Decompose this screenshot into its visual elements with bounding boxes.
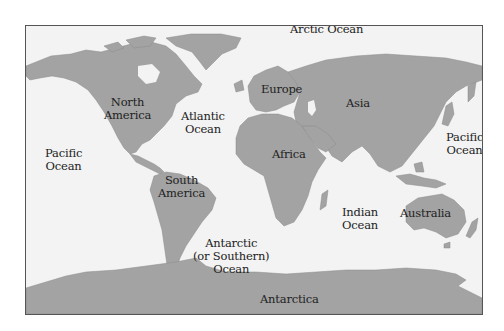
label-arctic-ocean: Arctic Ocean [290, 25, 363, 36]
indonesia-landmass [396, 162, 446, 188]
label-antarctic-ocean: Antarctic (or Southern) Ocean [193, 237, 269, 276]
label-north-america: North America [104, 96, 151, 122]
label-indian-ocean: Indian Ocean [342, 206, 378, 232]
label-pacific-ocean-west: Pacific Ocean [45, 147, 82, 173]
new-zealand-landmass [466, 218, 478, 238]
label-australia: Australia [400, 207, 451, 220]
central-america-landmass [130, 154, 164, 174]
world-map-frame: Arctic Ocean North America Atlantic Ocea… [25, 25, 483, 315]
label-africa: Africa [272, 148, 306, 161]
label-south-america: South America [158, 174, 205, 200]
label-asia: Asia [346, 97, 370, 110]
madagascar-landmass [320, 190, 328, 210]
label-pacific-ocean-east: Pacific Ocean [446, 131, 483, 157]
label-atlantic-ocean: Atlantic Ocean [181, 110, 225, 136]
label-antarctica: Antarctica [260, 293, 319, 306]
tasmania-landmass [444, 242, 450, 248]
label-europe: Europe [261, 83, 302, 96]
